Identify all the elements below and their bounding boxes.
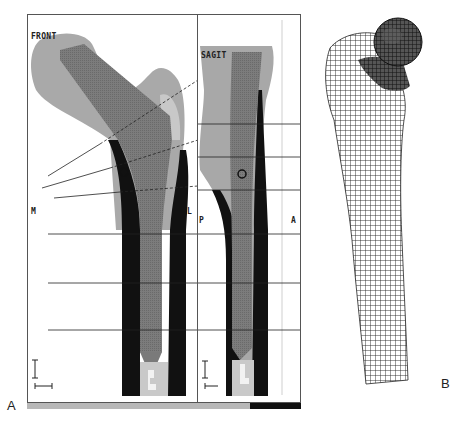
sagittal-femur-image (200, 20, 282, 396)
lateral-label: L (187, 207, 192, 216)
bottom-bar-black (250, 403, 301, 409)
femur-mesh-model (326, 18, 422, 384)
panel-a-letter: A (7, 398, 16, 413)
posterior-label: P (199, 216, 204, 225)
frontal-femur-image (31, 34, 188, 396)
sagittal-view-label: SAGIT (201, 51, 227, 60)
medial-label: M (31, 207, 36, 216)
figure-graphics (0, 0, 462, 422)
bottom-bar-grey (27, 403, 250, 409)
frontal-view-label: FRONT (31, 32, 57, 41)
panel-b-letter: B (441, 376, 450, 391)
anterior-label: A (291, 216, 296, 225)
view-divider (197, 14, 198, 403)
